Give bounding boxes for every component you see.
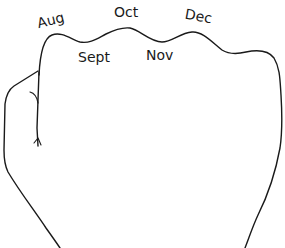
thumb-outline — [4, 71, 60, 248]
month-label-dec: Dec — [184, 7, 213, 25]
thumb-crease — [30, 92, 38, 103]
month-label-nov: Nov — [146, 48, 173, 62]
fist-outline-icon — [0, 0, 285, 248]
month-label-oct: Oct — [114, 5, 138, 19]
index-finger-edge — [37, 72, 39, 146]
fist-diagram: Aug Oct Dec Sept Nov — [0, 0, 285, 248]
month-label-sept: Sept — [78, 50, 110, 64]
